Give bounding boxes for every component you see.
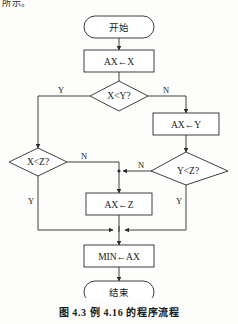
branch-label-x-lt-y-no: N xyxy=(163,85,169,95)
figure-caption: 图 4.3 例 4.16 的程序流程 xyxy=(0,304,238,319)
node-decide-y-lt-z-label: Y<Z? xyxy=(177,166,199,176)
branch-label-x-lt-z-no: N xyxy=(81,151,87,161)
figure-page: 所示。 xyxy=(0,0,238,324)
node-decide-x-lt-y[interactable]: X<Y? xyxy=(90,81,148,111)
node-assign-ax-z-label: AX←Z xyxy=(104,200,133,210)
node-decide-x-lt-z-label: X<Z? xyxy=(27,157,49,167)
edge-x-lt-y-no-to-assign-ax-y xyxy=(148,96,186,113)
node-decide-x-lt-z[interactable]: X<Z? xyxy=(9,148,67,176)
node-decide-y-lt-z[interactable]: Y<Z? xyxy=(151,152,228,185)
node-assign-ax-z[interactable]: AX←Z xyxy=(86,193,152,215)
branch-label-x-lt-z-yes: Y xyxy=(28,196,34,206)
branch-label-x-lt-y-yes: Y xyxy=(58,85,64,95)
node-assign-ax-y-label: AX←Y xyxy=(171,120,201,130)
flowchart-diagram: 开始 AX←X X<Y? Y N AX←Y X<Z? N Y Y<Z? xyxy=(0,8,238,298)
node-end[interactable]: 结束 xyxy=(84,281,154,298)
node-assign-ax-x-label: AX←X xyxy=(104,57,134,67)
branch-label-y-lt-z-no: N xyxy=(138,160,144,170)
branch-label-y-lt-z-yes: Y xyxy=(176,196,182,206)
node-assign-min-ax[interactable]: MIN←AX xyxy=(84,245,154,267)
node-start[interactable]: 开始 xyxy=(84,16,154,38)
node-start-label: 开始 xyxy=(109,22,129,33)
edge-x-lt-y-yes-to-decide-x-lt-z xyxy=(38,96,90,148)
node-assign-ax-x[interactable]: AX←X xyxy=(84,50,154,72)
node-assign-ax-y[interactable]: AX←Y xyxy=(153,113,219,135)
node-assign-min-ax-label: MIN←AX xyxy=(98,252,140,262)
node-decide-x-lt-y-label: X<Y? xyxy=(107,91,130,101)
junction-dot-assign-ax-z-feed xyxy=(117,169,120,172)
body-text-fragment: 所示。 xyxy=(2,0,82,8)
edge-x-lt-z-no-to-assign-ax-z xyxy=(67,162,119,193)
node-end-label: 结束 xyxy=(109,287,129,298)
